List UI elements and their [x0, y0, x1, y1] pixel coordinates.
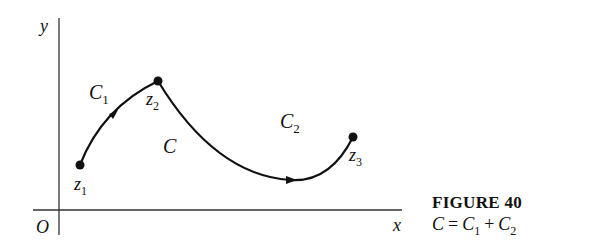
point-z2: [154, 77, 163, 86]
origin-label: O: [36, 217, 49, 237]
label-z3: z3: [348, 145, 362, 169]
label-z2: z2: [145, 89, 159, 113]
eq-term1: C: [462, 214, 474, 234]
point-z1: [76, 161, 85, 170]
label-c2: C2: [280, 110, 300, 136]
eq-lhs: C: [432, 214, 444, 234]
figure-caption: FIGURE 40 C=C1+C2: [432, 193, 522, 239]
y-axis-label: y: [38, 16, 48, 36]
eq-term2-sub: 2: [510, 224, 516, 238]
figure-equation: C=C1+C2: [432, 214, 522, 239]
eq-plus: +: [480, 214, 498, 234]
x-axis-label: x: [392, 215, 401, 235]
figure-title: FIGURE 40: [432, 193, 522, 213]
eq-equals: =: [444, 214, 462, 234]
curve-c2: [158, 81, 353, 180]
label-c: C: [163, 135, 177, 157]
label-c1: C1: [89, 81, 109, 107]
point-z3: [349, 133, 358, 142]
arrow-c2-icon: [286, 176, 297, 184]
label-z1: z1: [73, 174, 87, 198]
eq-term2: C: [498, 214, 510, 234]
